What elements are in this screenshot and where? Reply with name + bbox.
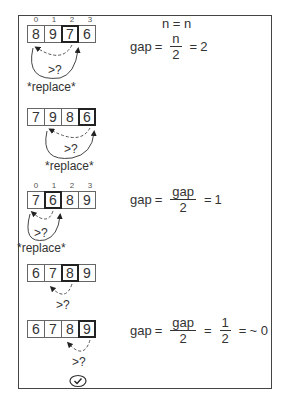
solid-arrow (28, 214, 60, 240)
dashed-arrow (52, 284, 72, 294)
array-cell-highlighted: 9 (78, 320, 96, 338)
dashed-arrow (33, 211, 53, 219)
solid-arrow (32, 48, 78, 78)
dashed-arrow (51, 128, 90, 138)
array-cell-highlighted: 7 (61, 25, 79, 43)
check-circle-icon (70, 376, 86, 387)
dashed-arrow (69, 340, 90, 351)
array-cell-highlighted: 6 (44, 191, 62, 209)
array-cell-highlighted: 6 (78, 108, 96, 126)
swap-arrows (0, 0, 286, 407)
dashed-arrow (37, 45, 72, 55)
array-cell-highlighted: 8 (61, 264, 79, 282)
solid-arrow (46, 131, 94, 158)
